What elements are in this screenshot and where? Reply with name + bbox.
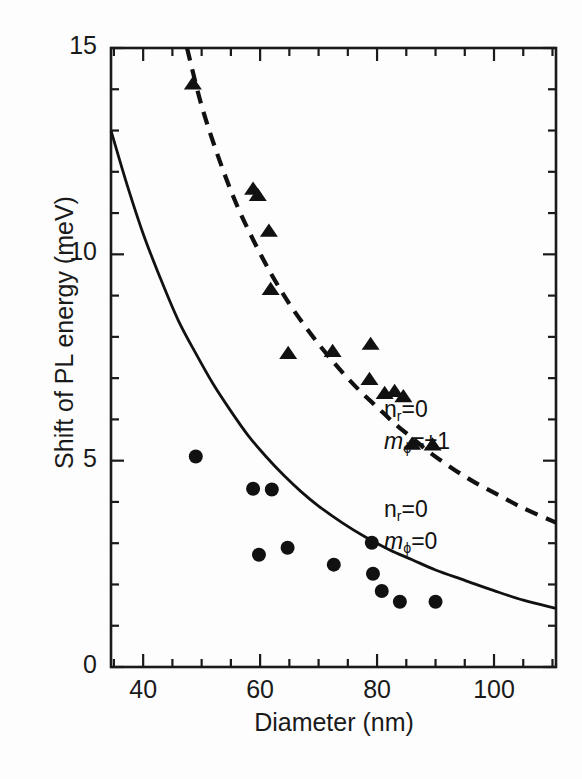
legend-upper-line1: nr=0 [384, 396, 450, 424]
legend-upper-m: m [384, 428, 403, 454]
legend-lower-line1: nr=0 [384, 496, 437, 524]
data-point-triangle [184, 76, 202, 89]
theory-curves [111, 48, 556, 608]
theory-curve-dashed [187, 48, 556, 523]
axis-ticks [111, 48, 556, 667]
data-point-circle [265, 483, 279, 497]
y-axis-title-wrapper: Shift of PL energy (meV) [50, 183, 79, 483]
x-tick-label: 40 [103, 675, 183, 704]
data-point-circle [327, 558, 341, 572]
legend-lower-n: n [384, 496, 397, 522]
x-tick-label: 80 [337, 675, 417, 704]
data-point-circle [189, 450, 203, 464]
y-tick-label: 0 [37, 650, 97, 679]
x-tick-label: 60 [220, 675, 300, 704]
data-point-circle [375, 584, 389, 598]
x-tick-label: 100 [454, 675, 534, 704]
legend-upper: nr=0 mϕ=±1 [384, 396, 450, 457]
data-point-circle [366, 567, 380, 581]
data-point-circle [365, 536, 379, 550]
legend-lower-m-val: =0 [411, 528, 437, 554]
figure-panel: Shift of PL energy (meV) Diameter (nm) 4… [0, 0, 582, 779]
plot-frame [111, 48, 556, 667]
data-point-triangle [279, 346, 297, 359]
legend-upper-n: n [384, 396, 397, 422]
legend-lower-m: m [384, 528, 403, 554]
data-point-circle [429, 595, 443, 609]
data-point-circle [252, 548, 266, 562]
y-tick-label: 10 [37, 237, 97, 266]
data-point-circle [393, 595, 407, 609]
y-tick-label: 5 [37, 444, 97, 473]
legend-lower-m-sub: ϕ [403, 541, 411, 557]
x-axis-title: Diameter (nm) [254, 708, 414, 736]
legend-upper-line2: mϕ=±1 [384, 428, 450, 456]
legend-lower-line2: mϕ=0 [384, 528, 437, 556]
legend-upper-m-val: =±1 [411, 428, 450, 454]
data-point-triangle [362, 337, 380, 350]
y-tick-label: 15 [37, 31, 97, 60]
legend-upper-m-sub: ϕ [403, 441, 411, 457]
data-point-triangle [360, 372, 378, 385]
x-axis-title-wrapper: Diameter (nm) [111, 708, 557, 737]
legend-upper-n-val: =0 [402, 396, 428, 422]
legend-lower: nr=0 mϕ=0 [384, 496, 437, 557]
data-point-triangle [260, 224, 278, 237]
data-point-circle [281, 541, 295, 555]
data-point-circle [246, 482, 260, 496]
legend-lower-n-val: =0 [402, 496, 428, 522]
data-point-triangle [324, 344, 342, 357]
theory-curve-solid [111, 131, 556, 609]
